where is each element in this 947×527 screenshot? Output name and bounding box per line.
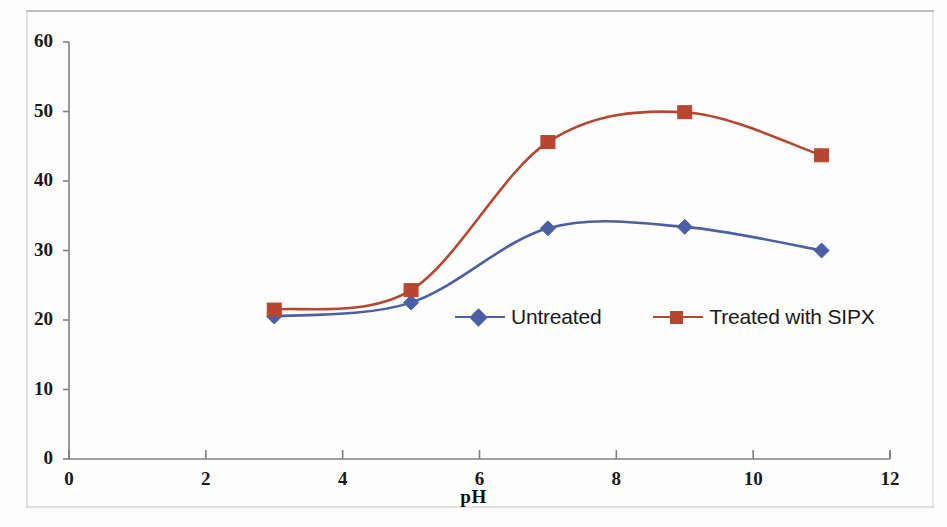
y-tick-label: 30 <box>13 239 53 261</box>
data-point-marker <box>404 295 419 310</box>
data-point-marker <box>678 106 692 119</box>
legend-label-treated: Treated with SIPX <box>709 306 874 327</box>
y-tick-label: 10 <box>13 378 53 400</box>
y-tick-label: 0 <box>13 447 53 469</box>
y-tick-label: 40 <box>13 169 53 191</box>
series-group <box>267 106 829 324</box>
data-point-marker <box>815 149 829 162</box>
legend-label-untreated: Untreated <box>511 306 601 327</box>
chart-legend: Untreated Treated with SIPX <box>455 306 875 327</box>
y-tick-label: 60 <box>13 30 53 52</box>
diamond-marker-icon <box>469 308 487 326</box>
chart-figure: 0102030405060024681012 pH Untreated Trea… <box>0 0 947 527</box>
data-point-marker <box>677 219 692 234</box>
legend-item-untreated[interactable]: Untreated <box>455 306 601 327</box>
legend-item-treated[interactable]: Treated with SIPX <box>653 306 874 327</box>
x-axis-title: pH <box>0 486 947 508</box>
data-point-marker <box>541 136 555 149</box>
data-point-marker <box>404 284 418 297</box>
data-point-marker <box>540 221 555 236</box>
legend-key-untreated <box>455 308 505 326</box>
square-marker-icon <box>670 311 683 324</box>
y-tick-label: 50 <box>13 100 53 122</box>
series-treated-with-sipx <box>267 106 828 316</box>
axis-group <box>63 42 890 459</box>
data-point-marker <box>814 243 829 258</box>
y-tick-label: 20 <box>13 308 53 330</box>
legend-key-treated <box>653 308 703 326</box>
plot-canvas <box>0 0 947 527</box>
data-point-marker <box>267 303 281 316</box>
